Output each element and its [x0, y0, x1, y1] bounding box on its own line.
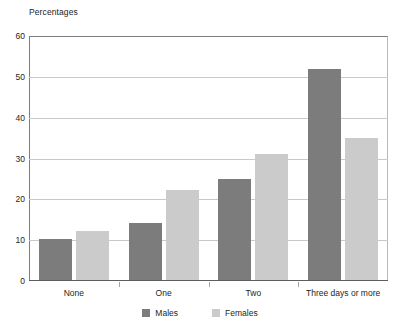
- x-axis-baseline: [29, 280, 388, 281]
- bar-females-none: [76, 231, 109, 281]
- legend-swatch-females-icon: [212, 309, 220, 317]
- y-axis-tick-20: 20: [3, 194, 25, 204]
- x-axis-tick-separator: [119, 282, 120, 287]
- bar-females-one: [166, 190, 199, 281]
- y-axis-title: Percentages: [29, 7, 78, 17]
- y-axis-tick-30: 30: [3, 154, 25, 164]
- bar-females-two: [255, 154, 288, 281]
- y-axis-tick-10: 10: [3, 235, 25, 245]
- x-axis-tick-separator: [298, 282, 299, 287]
- bar-females-three-days-or-more: [345, 138, 378, 281]
- y-axis-tick-0: 0: [3, 276, 25, 286]
- bar-chart: Percentages 0102030405060 NoneOneTwoThre…: [0, 0, 400, 330]
- x-axis-label-none: None: [64, 288, 84, 298]
- y-axis-tick-40: 40: [3, 113, 25, 123]
- legend-item-males[interactable]: Males: [142, 308, 178, 318]
- plot-area: [29, 36, 388, 281]
- bar-males-three-days-or-more: [308, 69, 341, 281]
- x-axis-label-three-days-or-more: Three days or more: [306, 288, 380, 298]
- chart-legend: MalesFemales: [0, 308, 400, 318]
- legend-item-females[interactable]: Females: [212, 308, 258, 318]
- y-axis-tick-50: 50: [3, 72, 25, 82]
- bar-males-none: [39, 239, 72, 281]
- bar-males-one: [129, 223, 162, 281]
- bar-males-two: [218, 179, 251, 281]
- y-axis-tick-labels: 0102030405060: [0, 36, 25, 281]
- legend-label-males: Males: [155, 308, 178, 318]
- y-axis-tick-60: 60: [3, 31, 25, 41]
- x-axis-label-two: Two: [246, 288, 262, 298]
- x-axis-label-one: One: [156, 288, 172, 298]
- legend-label-females: Females: [225, 308, 258, 318]
- x-axis-tick-separator: [209, 282, 210, 287]
- legend-swatch-males-icon: [142, 309, 150, 317]
